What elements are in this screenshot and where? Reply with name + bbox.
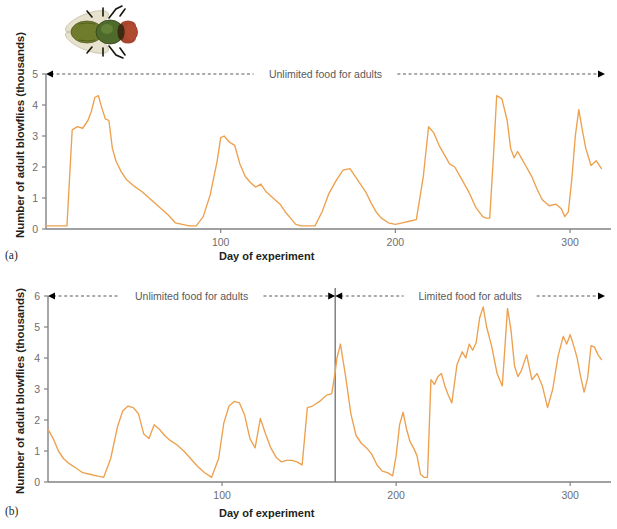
annotation-arrow: Unlimited food for adults [46, 68, 605, 80]
blowfly-population-figure: 012345100200300Unlimited food for adults… [0, 0, 617, 529]
panel-a-plot: 012345100200300Unlimited food for adults [0, 0, 617, 272]
annotation-arrow: Limited food for adults [335, 290, 605, 302]
panel-a-x-axis-label: Day of experiment [219, 250, 314, 262]
panel-a: 012345100200300Unlimited food for adults… [0, 0, 617, 272]
y-tick-label: 4 [34, 352, 40, 364]
y-tick-label: 6 [34, 290, 40, 302]
panel-b: 0123456100200300Unlimited food for adult… [0, 272, 617, 529]
annotation-arrow: Unlimited food for adults [48, 290, 335, 302]
y-tick-label: 1 [32, 192, 38, 204]
arrowhead-left [46, 71, 53, 78]
arrowhead-right [598, 293, 605, 300]
x-tick-label: 200 [387, 489, 405, 501]
y-tick-label: 0 [32, 223, 38, 235]
panel-b-x-axis-label: Day of experiment [219, 507, 314, 519]
y-tick-label: 5 [34, 321, 40, 333]
x-tick-label: 300 [561, 236, 579, 248]
y-tick-label: 4 [32, 99, 38, 111]
y-tick-label: 5 [32, 68, 38, 80]
annotation-label: Unlimited food for adults [269, 68, 382, 80]
y-tick-label: 2 [34, 414, 40, 426]
y-tick-label: 3 [34, 383, 40, 395]
data-line-adult-blowflies [48, 307, 602, 478]
arrowhead-left [48, 293, 55, 300]
y-tick-label: 0 [34, 476, 40, 488]
panel-b-letter: (b) [5, 505, 18, 517]
y-tick-label: 3 [32, 130, 38, 142]
arrowhead-right [328, 293, 335, 300]
arrowhead-right [598, 71, 605, 78]
panel-a-y-axis-label: Number of adult blowflies (thousands) [14, 32, 26, 238]
annotation-label: Limited food for adults [418, 290, 521, 302]
x-tick-label: 300 [561, 489, 579, 501]
x-tick-label: 100 [213, 489, 231, 501]
y-tick-label: 1 [34, 445, 40, 457]
panel-b-y-axis-label: Number of adult blowflies (thousands) [14, 288, 26, 494]
x-tick-label: 100 [212, 236, 230, 248]
panel-b-plot: 0123456100200300Unlimited food for adult… [0, 272, 617, 529]
x-tick-label: 200 [387, 236, 405, 248]
panel-a-letter: (a) [5, 249, 18, 261]
data-line-adult-blowflies [46, 96, 602, 226]
arrowhead-left [335, 293, 342, 300]
y-tick-label: 2 [32, 161, 38, 173]
annotation-label: Unlimited food for adults [135, 290, 248, 302]
